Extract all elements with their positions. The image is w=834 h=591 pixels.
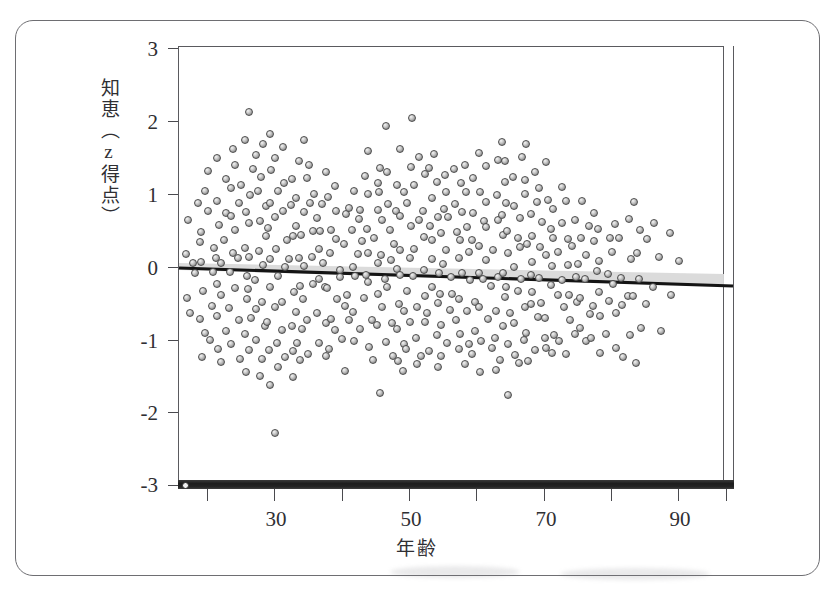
scatter-point [378, 216, 386, 224]
scatter-point [615, 234, 623, 242]
scatter-point [256, 372, 264, 380]
scatter-point [313, 309, 321, 317]
scatter-point [226, 268, 234, 276]
scatter-point [289, 232, 297, 240]
scatter-point [439, 260, 447, 268]
scatter-point [403, 199, 411, 207]
scatter-point [562, 197, 570, 205]
scatter-point [509, 173, 517, 181]
scatter-point [348, 226, 356, 234]
scatter-point [558, 276, 566, 284]
scatter-point [493, 191, 501, 199]
scatter-point [235, 199, 243, 207]
scatter-point [499, 322, 507, 330]
scatter-point [373, 321, 381, 329]
scatter-point [482, 198, 490, 206]
scatter-point [611, 220, 619, 228]
scatter-point [374, 179, 382, 187]
scatter-point [222, 175, 230, 183]
scatter-point [355, 215, 363, 223]
scatter-point [554, 248, 562, 256]
scatter-point [231, 226, 239, 234]
scatter-point [288, 322, 296, 330]
scatter-point [315, 339, 323, 347]
scatter-point [453, 228, 461, 236]
scatter-point [452, 316, 460, 324]
scatter-point [408, 114, 416, 122]
scatter-point [189, 259, 197, 267]
x-tick-label-70: 70 [522, 508, 570, 530]
scatter-point [555, 337, 563, 345]
scatter-point [537, 299, 545, 307]
scatter-point [482, 223, 490, 231]
scatter-point [434, 213, 442, 221]
scatter-point [560, 303, 568, 311]
scatter-point [503, 227, 511, 235]
scatter-point [635, 275, 643, 283]
scatter-point [643, 235, 651, 243]
scatter-point [217, 291, 225, 299]
scatter-point [425, 164, 433, 172]
scatter-point [428, 194, 436, 202]
scatter-point [469, 174, 477, 182]
scatter-point [396, 145, 404, 153]
scatter-point [331, 182, 339, 190]
scatter-point [425, 347, 433, 355]
scatter-point [258, 298, 266, 306]
scatter-point [243, 295, 251, 303]
scatter-point [542, 251, 550, 259]
scatter-point [541, 334, 549, 342]
scatter-point [349, 308, 357, 316]
scatter-point [262, 232, 270, 240]
scatter-point [456, 236, 464, 244]
scatter-point [360, 294, 368, 302]
scatter-point [206, 336, 214, 344]
scatter-point [527, 210, 535, 218]
scatter-point [627, 255, 635, 263]
scatter-point [374, 206, 382, 214]
scatter-point [523, 240, 531, 248]
scatter-point [196, 238, 204, 246]
x-tick-mark-20 [207, 489, 208, 501]
scatter-point [423, 309, 431, 317]
scatter-point [618, 301, 626, 309]
scatter-point [421, 318, 429, 326]
scatter-point [544, 196, 552, 204]
scatter-point [549, 205, 557, 213]
scatter-point [535, 274, 543, 282]
scatter-point [245, 346, 253, 354]
scatter-point [375, 188, 383, 196]
scatter-point [354, 250, 362, 258]
scatter-point [274, 272, 282, 280]
scatter-point [415, 216, 423, 224]
scatter-point [433, 331, 441, 339]
scatter-point [609, 280, 617, 288]
scatter-point [396, 246, 404, 254]
scatter-point [231, 284, 239, 292]
scatter-point [382, 122, 390, 130]
scatter-point [251, 276, 259, 284]
scatter-point [657, 327, 665, 335]
scatter-point [281, 263, 289, 271]
scatter-point [263, 318, 271, 326]
scatter-point [504, 391, 512, 399]
scatter-point [370, 234, 378, 242]
scatter-point [451, 200, 459, 208]
scatter-point [521, 190, 529, 198]
scatter-point [382, 338, 390, 346]
scatter-point [191, 269, 199, 277]
scatter-point [387, 256, 395, 264]
scatter-point [225, 304, 233, 312]
scatter-point [504, 249, 512, 257]
scatter-point [182, 250, 190, 258]
scatter-point [274, 187, 282, 195]
scatter-point [450, 165, 458, 173]
scatter-point [249, 165, 257, 173]
scatter-point [514, 287, 522, 295]
scatter-point [463, 223, 471, 231]
scatter-point [241, 330, 249, 338]
scatter-point [297, 231, 305, 239]
scatter-point [475, 303, 483, 311]
scatter-point [407, 163, 415, 171]
scatter-point [510, 319, 518, 327]
